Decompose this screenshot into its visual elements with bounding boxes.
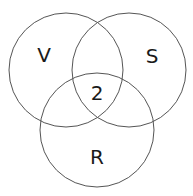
- venn-diagram: V S R 2: [0, 0, 193, 196]
- set-label-r: R: [90, 145, 104, 169]
- intersection-value: 2: [91, 81, 104, 105]
- circle-v: [9, 13, 123, 127]
- circle-s: [72, 13, 186, 127]
- set-label-v: V: [37, 43, 51, 67]
- set-label-s: S: [146, 44, 159, 68]
